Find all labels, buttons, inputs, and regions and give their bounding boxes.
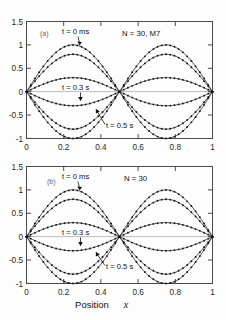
curve-marker [85, 278, 87, 280]
curve-marker [51, 101, 53, 103]
curve-marker [161, 44, 163, 46]
curve-marker [51, 200, 53, 202]
curve-marker [114, 89, 116, 91]
curve-marker [157, 46, 159, 48]
curve-marker [30, 85, 32, 87]
curve-marker [190, 245, 192, 247]
curve-marker [186, 207, 188, 209]
curve-marker [114, 242, 116, 244]
curve-marker [85, 193, 87, 195]
curve-marker [169, 54, 171, 56]
panel-b-xtick-0: 0 [24, 288, 29, 297]
curve-marker [34, 225, 36, 227]
curve-marker [68, 189, 70, 191]
curve-marker [76, 199, 78, 201]
panel-a-arrowhead-t03 [78, 97, 82, 101]
curve-marker [157, 127, 159, 129]
curve-marker [110, 95, 112, 97]
curve-marker [72, 77, 74, 79]
curve-marker [97, 100, 99, 102]
curve-marker [110, 80, 112, 82]
curve-marker [144, 62, 146, 64]
curve-marker [38, 106, 40, 108]
curve-marker [203, 240, 205, 242]
curve-marker [178, 202, 180, 204]
curve-marker [76, 44, 78, 46]
panel-b-ytick-4: -0.5 [9, 256, 24, 265]
curve-marker [81, 127, 83, 129]
curve-marker [114, 85, 116, 87]
curve-marker [34, 80, 36, 82]
curve-marker [55, 122, 57, 124]
curve-marker [161, 199, 163, 201]
curve-marker [42, 111, 44, 113]
curve-marker [127, 240, 129, 242]
curve-marker [102, 228, 104, 230]
curve-marker [68, 222, 70, 224]
curve-marker [59, 104, 61, 106]
curve-marker [127, 104, 129, 106]
curve-marker [135, 111, 137, 113]
curve-marker [199, 230, 201, 232]
curve-marker [102, 111, 104, 113]
curve-marker [42, 116, 44, 118]
curve-marker [140, 245, 142, 247]
curve-marker [34, 249, 36, 251]
curve-marker [152, 48, 154, 50]
curve-marker [140, 227, 142, 229]
curve-marker [72, 250, 74, 252]
curve-marker [106, 71, 108, 73]
curve-marker [123, 93, 125, 95]
curve-marker [140, 82, 142, 84]
curve-marker [174, 249, 176, 251]
curve-marker [157, 222, 159, 224]
curve-marker [38, 71, 40, 73]
panel-b-arrowhead-t03 [78, 242, 82, 246]
curve-marker [207, 84, 209, 86]
curve-marker [186, 101, 188, 103]
curve-marker [93, 101, 95, 103]
curve-marker [174, 200, 176, 202]
curve-marker [93, 246, 95, 248]
curve-marker [186, 55, 188, 57]
curve-marker [148, 122, 150, 124]
curve-marker [152, 223, 154, 225]
curve-marker [26, 91, 28, 93]
curve-marker [203, 101, 205, 103]
panel-a-ytick-1: 1 [18, 41, 23, 50]
curve-marker [157, 272, 159, 274]
curve-marker [127, 232, 129, 234]
curve-marker [169, 189, 171, 191]
curve-marker [97, 205, 99, 207]
curve-marker [148, 248, 150, 250]
curve-marker [123, 234, 125, 236]
curve-marker [59, 193, 61, 195]
curve-marker [131, 85, 133, 87]
curve-marker [203, 246, 205, 248]
curve-marker [47, 60, 49, 62]
panel-b-label: (b) [47, 178, 56, 186]
curve-marker [178, 104, 180, 106]
curve-marker [148, 275, 150, 277]
curve-marker [114, 234, 116, 236]
curve-marker [190, 227, 192, 229]
curve-marker [38, 255, 40, 257]
curve-marker [93, 62, 95, 64]
curve-marker [64, 200, 66, 202]
curve-marker [174, 222, 176, 224]
curve-marker [76, 105, 78, 107]
curve-marker [59, 78, 61, 80]
panel-a-annot-t05: t = 0.5 s [106, 121, 133, 130]
panel-b-xtick-4: 0.8 [170, 288, 182, 297]
curve-marker [157, 104, 159, 106]
curve-marker [110, 240, 112, 242]
curve-marker [89, 79, 91, 81]
curve-marker [165, 222, 167, 224]
curve-marker [42, 256, 44, 258]
curve-marker [195, 210, 197, 212]
curve-marker [72, 222, 74, 224]
curve-marker [131, 220, 133, 222]
curve-marker [76, 54, 78, 56]
curve-marker [30, 234, 32, 236]
curve-marker [72, 53, 74, 55]
